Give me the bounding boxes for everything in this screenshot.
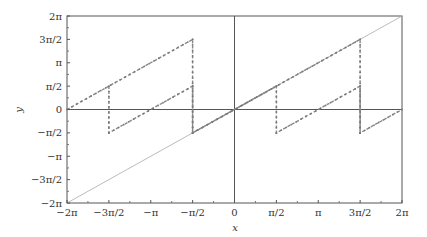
data-marker bbox=[124, 76, 126, 78]
data-marker bbox=[241, 104, 243, 106]
data-marker bbox=[275, 85, 277, 87]
data-marker bbox=[359, 127, 361, 129]
x-tick-label: π/2 bbox=[268, 207, 284, 218]
data-marker bbox=[335, 99, 337, 101]
data-marker bbox=[153, 60, 155, 62]
data-marker bbox=[359, 77, 361, 79]
data-marker bbox=[108, 85, 110, 87]
data-marker bbox=[105, 87, 107, 89]
data-marker bbox=[310, 113, 312, 115]
data-marker bbox=[108, 101, 110, 103]
data-marker bbox=[231, 110, 233, 112]
data-marker bbox=[123, 124, 125, 126]
data-marker bbox=[138, 115, 140, 117]
data-marker bbox=[76, 103, 78, 105]
data-marker bbox=[108, 116, 110, 118]
data-marker bbox=[157, 104, 159, 106]
data-marker bbox=[133, 118, 135, 120]
data-marker bbox=[359, 90, 361, 92]
data-marker bbox=[177, 47, 179, 49]
data-marker bbox=[359, 49, 361, 51]
data-marker bbox=[275, 106, 277, 108]
data-marker bbox=[139, 68, 141, 70]
data-marker bbox=[275, 96, 277, 98]
data-marker bbox=[300, 118, 302, 120]
data-marker bbox=[364, 129, 366, 131]
data-marker bbox=[271, 88, 273, 90]
data-marker bbox=[359, 85, 361, 87]
data-marker bbox=[275, 116, 277, 118]
data-marker bbox=[236, 107, 238, 109]
data-marker bbox=[359, 96, 361, 98]
data-marker bbox=[197, 129, 199, 131]
data-marker bbox=[275, 127, 277, 129]
data-marker bbox=[335, 52, 337, 54]
data-marker bbox=[192, 85, 194, 87]
data-marker bbox=[177, 93, 179, 95]
data-marker bbox=[266, 91, 268, 93]
data-marker bbox=[330, 102, 332, 104]
data-marker bbox=[382, 119, 384, 121]
data-marker bbox=[108, 111, 110, 113]
data-marker bbox=[275, 122, 277, 124]
data-marker bbox=[290, 124, 292, 126]
y-tick-label: π/2 bbox=[46, 81, 62, 92]
data-marker bbox=[326, 57, 328, 59]
data-marker bbox=[192, 132, 194, 134]
data-marker bbox=[261, 93, 263, 95]
data-marker bbox=[331, 55, 333, 57]
x-tick-label: −π/2 bbox=[180, 207, 205, 218]
data-marker bbox=[287, 79, 289, 81]
data-marker bbox=[192, 38, 194, 40]
data-marker bbox=[392, 114, 394, 116]
data-marker bbox=[192, 77, 194, 79]
data-marker bbox=[110, 84, 112, 86]
data-marker bbox=[182, 91, 184, 93]
data-marker bbox=[158, 57, 160, 59]
data-marker bbox=[100, 90, 102, 92]
data-marker bbox=[359, 82, 361, 84]
data-marker bbox=[340, 49, 342, 51]
data-marker bbox=[71, 106, 73, 108]
data-marker bbox=[108, 96, 110, 98]
data-marker bbox=[192, 116, 194, 118]
data-marker bbox=[192, 96, 194, 98]
data-marker bbox=[285, 126, 287, 128]
data-marker bbox=[129, 74, 131, 76]
data-marker bbox=[192, 66, 194, 68]
data-marker bbox=[359, 71, 361, 73]
data-marker bbox=[320, 107, 322, 109]
data-marker bbox=[192, 127, 194, 129]
data-marker bbox=[143, 65, 145, 67]
data-marker bbox=[401, 109, 403, 111]
data-marker bbox=[113, 129, 115, 131]
data-marker bbox=[172, 49, 174, 51]
data-marker bbox=[202, 126, 204, 128]
data-marker bbox=[172, 96, 174, 98]
data-marker bbox=[315, 110, 317, 112]
data-marker bbox=[340, 96, 342, 98]
data-marker bbox=[305, 115, 307, 117]
data-marker bbox=[167, 99, 169, 101]
data-marker bbox=[359, 132, 361, 134]
data-marker bbox=[275, 132, 277, 134]
data-marker bbox=[148, 63, 150, 65]
data-marker bbox=[192, 122, 194, 124]
data-marker bbox=[345, 46, 347, 48]
x-tick-label: −3π/2 bbox=[93, 207, 124, 218]
data-marker bbox=[251, 99, 253, 101]
data-marker bbox=[108, 122, 110, 124]
data-marker bbox=[292, 76, 294, 78]
data-marker bbox=[359, 44, 361, 46]
x-tick-label: π bbox=[315, 207, 322, 218]
y-tick-label: 2π bbox=[49, 11, 62, 22]
data-marker bbox=[108, 106, 110, 108]
x-tick-label: 0 bbox=[231, 207, 237, 218]
data-marker bbox=[207, 124, 209, 126]
data-marker bbox=[278, 84, 280, 86]
data-marker bbox=[182, 44, 184, 46]
data-marker bbox=[369, 127, 371, 129]
data-marker bbox=[114, 82, 116, 84]
data-marker bbox=[325, 104, 327, 106]
y-tick-label: 3π/2 bbox=[39, 34, 62, 45]
